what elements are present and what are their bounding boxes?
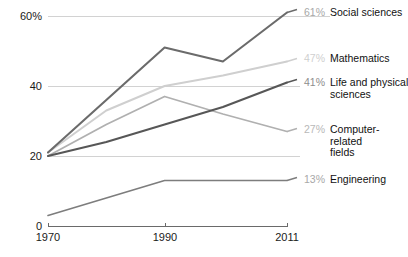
leader-mathematics bbox=[287, 59, 297, 62]
gridlines bbox=[48, 17, 330, 157]
series-name-computer-line-3: fields bbox=[330, 147, 380, 159]
series-value-engineering: 13% bbox=[299, 174, 325, 186]
y-tick-label-60: 60% bbox=[0, 10, 42, 22]
x-tick-label-1990: 1990 bbox=[145, 231, 185, 243]
series-label-computer-related-fields: 27%Computer-relatedfields bbox=[299, 124, 380, 159]
series-name-computer-line-1: Computer- bbox=[330, 123, 380, 135]
series-value-life-and-physical-sciences: 41% bbox=[299, 77, 325, 89]
series-label-mathematics: 47%Mathematics bbox=[299, 53, 390, 65]
series-label-life-and-physical-sciences: 41%Life and physicalsciences bbox=[299, 77, 408, 100]
series-line-engineering bbox=[48, 181, 287, 216]
leader-computer-related-fields bbox=[287, 129, 297, 132]
series-value-social-sciences: 61% bbox=[299, 7, 325, 19]
series-label-engineering: 13%Engineering bbox=[299, 174, 386, 186]
series-name-computer-related-fields: Computer-relatedfields bbox=[330, 124, 380, 159]
series-line-mathematics bbox=[48, 62, 287, 153]
series-line-social-sciences bbox=[48, 13, 287, 153]
x-axis bbox=[48, 223, 287, 227]
leader-social-sciences bbox=[287, 10, 297, 13]
series-name-life-line-1: Life and physical bbox=[330, 76, 408, 88]
series-name-mathematics: Mathematics bbox=[330, 53, 390, 65]
series-value-mathematics: 47% bbox=[299, 53, 325, 65]
series-name-engineering: Engineering bbox=[330, 174, 386, 186]
y-tick-label-20: 20 bbox=[0, 150, 42, 162]
leader-life-and-physical-sciences bbox=[287, 80, 297, 83]
series-name-life-and-physical-sciences: Life and physicalsciences bbox=[330, 77, 408, 100]
series-label-social-sciences: 61%Social sciences bbox=[299, 7, 402, 19]
series-name-life-line-2: sciences bbox=[330, 89, 408, 101]
y-tick-label-40: 40 bbox=[0, 80, 42, 92]
series-name-social-sciences: Social sciences bbox=[330, 7, 402, 19]
series-value-computer-related-fields: 27% bbox=[299, 124, 325, 136]
x-tick-label-1970: 1970 bbox=[28, 231, 68, 243]
leader-engineering bbox=[287, 178, 297, 181]
x-tick-label-2011: 2011 bbox=[267, 231, 307, 243]
x-axis-line bbox=[48, 223, 287, 227]
